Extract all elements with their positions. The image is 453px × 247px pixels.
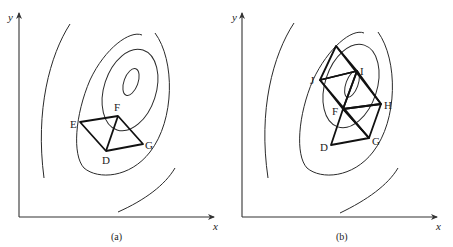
- simplex-f-i-j: [320, 71, 357, 109]
- contour-ellipse-3: [77, 33, 170, 175]
- y-axis-label: y: [231, 11, 237, 23]
- point-label-f: F: [332, 105, 338, 117]
- contour-outer-left: [265, 23, 294, 178]
- point-label-f: F: [114, 101, 120, 113]
- x-axis-label: x: [212, 220, 218, 232]
- simplex-edge-d-f: [106, 116, 118, 151]
- simplex-diagram: y x (a) E F G D y x (b): [0, 0, 453, 247]
- panel-b: y x (b) I J H F G D: [231, 11, 441, 243]
- point-label-j: J: [310, 74, 315, 86]
- contour-ellipse-1: [120, 66, 143, 97]
- point-label-g: G: [145, 139, 153, 151]
- point-label-e: E: [70, 118, 77, 130]
- point-label-h: H: [384, 99, 392, 111]
- x-axis-label: x: [435, 220, 441, 232]
- contour-outer-left: [41, 24, 70, 178]
- contour-outer-right: [118, 168, 175, 212]
- panel-a: y x (a) E F G D: [7, 11, 218, 243]
- point-label-i: I: [360, 65, 364, 77]
- simplex-i-j-top: [320, 46, 357, 80]
- point-label-d: D: [320, 141, 328, 153]
- contour-ellipse-2: [92, 42, 167, 138]
- point-label-g: G: [372, 135, 380, 147]
- contour-outer-right: [340, 168, 398, 213]
- panel-caption: (a): [111, 231, 122, 243]
- point-label-d: D: [102, 154, 110, 166]
- panel-caption: (b): [336, 231, 348, 243]
- y-axis-label: y: [7, 11, 13, 23]
